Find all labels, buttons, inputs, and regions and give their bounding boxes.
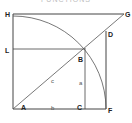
label-B: B xyxy=(78,56,83,63)
label-C: C xyxy=(77,104,82,111)
label-L: L xyxy=(5,47,10,54)
label-G: G xyxy=(125,11,131,18)
line-AG xyxy=(13,14,124,109)
label-c: c xyxy=(51,78,54,84)
label-A: A xyxy=(21,104,26,111)
label-a: a xyxy=(79,80,83,86)
unit-arc xyxy=(13,16,106,109)
label-H: H xyxy=(5,11,10,18)
trig-functions-diagram: H G D L B A C F a b c xyxy=(0,0,132,123)
label-F: F xyxy=(108,107,113,114)
label-b: b xyxy=(51,105,55,111)
label-D: D xyxy=(108,31,113,38)
